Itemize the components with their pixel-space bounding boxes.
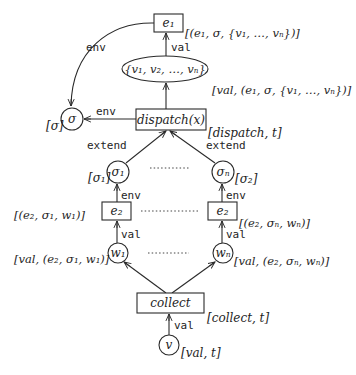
node-collect: collect xyxy=(137,293,204,313)
annotation-e2-left: [(e₂, σ₁, w₁)] xyxy=(14,208,85,222)
svg-text:e₂: e₂ xyxy=(217,204,229,218)
edge-sigma1-to-dispatch xyxy=(126,131,166,163)
edge-label-env-left: env xyxy=(121,189,141,202)
svg-text:w₁: w₁ xyxy=(110,246,125,260)
annotation-sigma-1: [σ₁] xyxy=(88,171,111,185)
svg-text:{v₁, v₂, …, vₙ}: {v₁, v₂, …, vₙ} xyxy=(124,62,205,76)
annotation-wn: [val, (e₂, σₙ, wₙ)] xyxy=(234,254,330,268)
node-wn: wₙ xyxy=(213,243,233,263)
edge-label-env-right: env xyxy=(226,189,246,202)
edge-collect-to-wn xyxy=(172,262,215,293)
annotation-value-set: [val, (e₁, σ, {v₁, …, vₙ})] xyxy=(212,83,352,97)
svg-text:e₁: e₁ xyxy=(163,16,175,30)
node-sigma-n: σₙ xyxy=(212,161,234,183)
annotation-v: [val, t] xyxy=(181,346,221,360)
svg-text:σₙ: σₙ xyxy=(216,165,229,179)
edge-collect-to-w1 xyxy=(124,262,166,293)
svg-text:collect: collect xyxy=(150,296,190,310)
annotation-dispatch: [dispatch, t] xyxy=(208,126,282,140)
svg-text:e₂: e₂ xyxy=(111,204,123,218)
edge-label-val-bottom: val xyxy=(174,319,194,332)
annotation-e2-right: [(e₂, σₙ, wₙ)] xyxy=(239,216,311,230)
annotation-sigma-n: [σ₂] xyxy=(235,172,258,186)
svg-text:dispatch(x): dispatch(x) xyxy=(137,113,205,127)
edge-label-val-e1: val xyxy=(171,41,191,54)
svg-text:wₙ: wₙ xyxy=(215,246,230,260)
edge-label-extend-left: extend xyxy=(87,139,127,152)
annotation-e1: [(e₁, σ, {v₁, …, vₙ})] xyxy=(185,26,300,40)
svg-text:σ: σ xyxy=(68,112,77,126)
node-e2-right: e₂ xyxy=(208,202,237,220)
node-w1: w₁ xyxy=(108,243,128,263)
node-value-set: {v₁, v₂, …, vₙ} xyxy=(122,56,208,82)
edge-label-val-left: val xyxy=(121,228,141,241)
svg-text:v: v xyxy=(166,338,173,352)
svg-text:σ₁: σ₁ xyxy=(111,165,124,179)
node-sigma: σ xyxy=(61,108,83,130)
annotation-collect: [collect, t] xyxy=(207,311,269,325)
edge-label-extend-right: extend xyxy=(206,139,246,152)
edge-label-env-top: env xyxy=(86,41,106,54)
annotation-sigma: [σ] xyxy=(46,119,64,133)
evaluation-diagram: env val env extend extend env env val va… xyxy=(0,0,356,375)
node-dispatch: dispatch(x) xyxy=(136,109,206,130)
node-v: v xyxy=(159,335,179,355)
edge-label-env-mid: env xyxy=(96,105,116,118)
node-e1: e₁ xyxy=(154,14,183,32)
annotation-w1: [val, (e₂, σ₁, w₁)] xyxy=(14,252,110,266)
node-e2-left: e₂ xyxy=(102,202,131,220)
